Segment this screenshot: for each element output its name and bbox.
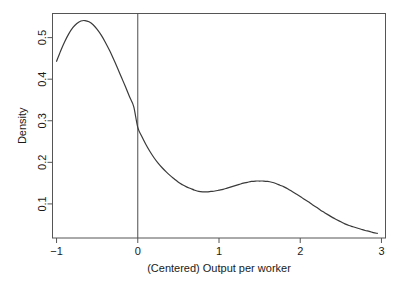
y-tick-label: 0.3 [37,113,49,128]
y-tick-label: 0.1 [37,196,49,211]
y-tick-label: 0.5 [37,30,49,45]
y-axis-title: Density [16,107,28,144]
x-tick-label: 2 [297,245,303,257]
x-tick-label: 3 [378,245,384,257]
density-plot-figure: 0.10.20.30.40.5 −10123 Density (Centered… [0,0,401,283]
x-tick-label: 1 [216,245,222,257]
x-tick-label: −1 [50,245,63,257]
y-tick-label: 0.4 [37,72,49,87]
chart-canvas: 0.10.20.30.40.5 −10123 Density (Centered… [0,0,401,283]
x-tick-label: 0 [135,245,141,257]
figure-background [0,0,401,283]
x-axis-title: (Centered) Output per worker [147,262,291,274]
y-tick-label: 0.2 [37,155,49,170]
